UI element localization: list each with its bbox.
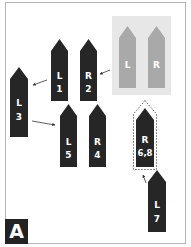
panel-label: A bbox=[5, 219, 28, 244]
connector-arrows bbox=[0, 0, 191, 247]
